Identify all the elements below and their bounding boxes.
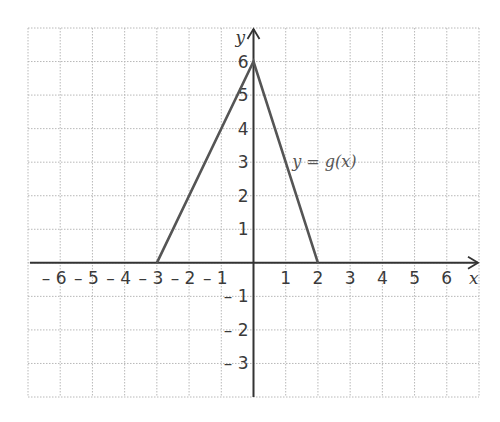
y-tick-label: 3 [238, 152, 249, 172]
x-tick-label: 2 [313, 268, 324, 288]
x-tick-label: – 1 [203, 268, 228, 288]
y-axis-label: y [235, 27, 246, 47]
graph-of-g: – 6– 5– 4– 3– 2– 1123456– 3– 2– 1123456 … [0, 0, 500, 422]
x-tick-label: 6 [441, 268, 452, 288]
x-tick-label: – 2 [171, 268, 196, 288]
x-tick-label: – 4 [106, 268, 131, 288]
x-tick-label: 1 [280, 268, 291, 288]
curve-annotation: y = g(x) [291, 152, 356, 171]
axes [30, 29, 478, 397]
y-tick-label: 6 [238, 52, 249, 72]
x-tick-label: 3 [345, 268, 356, 288]
y-tick-label: – 2 [224, 320, 249, 340]
x-tick-label: – 3 [138, 268, 163, 288]
x-tick-label: – 5 [74, 268, 99, 288]
x-tick-label: – 6 [42, 268, 67, 288]
y-tick-label: 2 [238, 186, 249, 206]
x-tick-label: 4 [377, 268, 388, 288]
tick-labels: – 6– 5– 4– 3– 2– 1123456– 3– 2– 1123456 [42, 52, 452, 374]
y-tick-label: 5 [238, 85, 249, 105]
y-tick-label: 4 [238, 119, 249, 139]
y-tick-label: – 3 [224, 353, 249, 373]
x-axis-label: x [469, 268, 479, 288]
x-tick-label: 5 [409, 268, 420, 288]
y-tick-label: – 1 [224, 286, 249, 306]
y-tick-label: 1 [238, 219, 249, 239]
axis-labels: xyy = g(x) [235, 27, 480, 288]
